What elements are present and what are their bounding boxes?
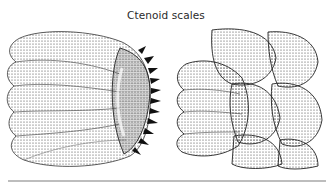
single-ctenoid-scale-illustration [2,28,170,170]
bottom-divider [8,180,326,182]
overlapping-ctenoid-scales-illustration [172,28,330,170]
figure-title: Ctenoid scales [0,9,332,21]
